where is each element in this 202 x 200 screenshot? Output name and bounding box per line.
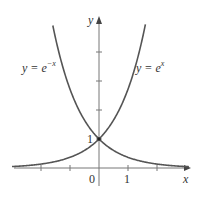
intersection-point — [97, 137, 101, 141]
left-curve-label-base: y = e — [21, 61, 47, 75]
right-curve-label-base: y = e — [135, 61, 161, 75]
y-axis-arrow-icon — [96, 16, 102, 24]
right-curve-label: y = ex — [135, 59, 165, 75]
y-tick-label-1: 1 — [87, 132, 93, 146]
x-tick-label-1: 1 — [124, 172, 130, 186]
curve-e-x — [12, 24, 145, 166]
origin-label: 0 — [89, 172, 95, 186]
x-axis-label: x — [182, 172, 189, 186]
exponential-chart: y x 0 1 1 y = e−x y = ex — [0, 0, 202, 200]
left-curve-label: y = e−x — [21, 59, 56, 75]
y-axis-label: y — [87, 13, 94, 27]
curve-e-neg-x — [53, 26, 189, 167]
left-curve-label-exp: −x — [47, 59, 56, 68]
right-curve-label-exp: x — [160, 59, 165, 68]
